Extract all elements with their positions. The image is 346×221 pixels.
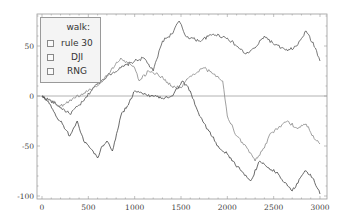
y-tick-label: -50: [22, 142, 34, 151]
x-axis-tick-labels: 050010001500200025003000: [40, 203, 330, 212]
x-tick-label: 500: [81, 203, 96, 212]
series-line-rng: [42, 81, 320, 194]
legend-label: RNG: [61, 66, 87, 76]
y-tick-label: -100: [17, 192, 34, 201]
y-axis-tick-labels: -100-50050: [17, 42, 34, 201]
legend-item-rng[interactable]: RNG: [47, 65, 87, 77]
checkbox-icon[interactable]: [47, 54, 54, 61]
checkbox-icon[interactable]: [47, 40, 54, 47]
x-tick-label: 1500: [171, 203, 190, 212]
y-tick-label: 0: [29, 92, 34, 101]
legend-label: rule 30: [61, 38, 93, 48]
x-tick-label: 2500: [264, 203, 283, 212]
checkbox-icon[interactable]: [47, 68, 54, 75]
x-tick-label: 2000: [218, 203, 237, 212]
x-tick-label: 3000: [310, 203, 329, 212]
legend-item-rule-30[interactable]: rule 30: [47, 37, 93, 49]
x-tick-label: 0: [40, 203, 45, 212]
legend-label: DJI: [61, 52, 83, 62]
legend: walk: rule 30 DJI RNG: [40, 17, 101, 83]
y-tick-label: 50: [24, 42, 34, 51]
legend-title: walk:: [41, 22, 100, 32]
x-tick-label: 1000: [125, 203, 144, 212]
legend-item-dji[interactable]: DJI: [47, 51, 83, 63]
